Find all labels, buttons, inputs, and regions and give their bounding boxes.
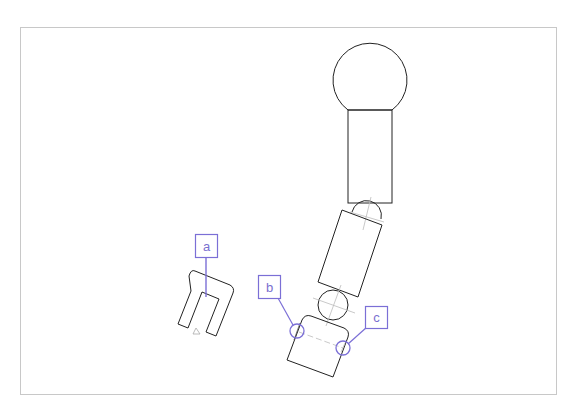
ball-head bbox=[333, 43, 407, 110]
callout-a[interactable]: a bbox=[196, 235, 218, 298]
callout-a-label: a bbox=[203, 239, 211, 254]
hand-block bbox=[287, 316, 349, 378]
callout-b[interactable]: b bbox=[259, 276, 305, 339]
callout-c-label: c bbox=[373, 310, 380, 325]
diagram-frame bbox=[21, 28, 557, 395]
upper-arm-segment bbox=[348, 110, 392, 203]
callout-b-leader bbox=[278, 298, 293, 325]
triangle-marker bbox=[193, 328, 200, 334]
diagram-canvas: a b c bbox=[0, 0, 574, 411]
elbow-guide-line bbox=[363, 197, 371, 230]
forearm-segment bbox=[318, 210, 382, 297]
callout-c-leader bbox=[348, 327, 367, 344]
callout-b-label: b bbox=[266, 280, 273, 295]
